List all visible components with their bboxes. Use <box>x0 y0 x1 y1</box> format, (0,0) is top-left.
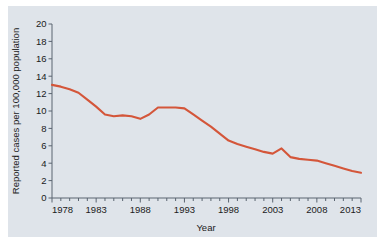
x-tick-label: 1988 <box>130 204 151 215</box>
chart-figure: 02468101214161820 1978198319881993199820… <box>0 0 385 248</box>
x-tick-label: 2013 <box>340 204 361 215</box>
x-tick-label: 1983 <box>86 204 107 215</box>
y-tick-label: 4 <box>41 158 46 169</box>
x-tick-label: 2008 <box>306 204 327 215</box>
y-tick-label: 12 <box>36 88 47 99</box>
y-axis-tick-labels: 02468101214161820 <box>36 18 47 203</box>
y-tick-label: 0 <box>41 192 46 203</box>
axes <box>52 24 361 198</box>
y-tick-label: 16 <box>36 53 47 64</box>
y-tick-label: 6 <box>41 140 46 151</box>
y-tick-label: 10 <box>36 105 47 116</box>
x-tick-label: 2003 <box>262 204 283 215</box>
x-tick-label: 1978 <box>52 204 73 215</box>
y-axis-ticks <box>49 24 53 198</box>
y-axis-title: Reported cases per 100,000 population <box>10 28 21 194</box>
y-tick-label: 2 <box>41 175 46 186</box>
y-tick-label: 20 <box>36 18 47 29</box>
y-tick-label: 14 <box>36 71 47 82</box>
x-tick-label: 1998 <box>218 204 239 215</box>
x-axis-title: Year <box>196 222 215 233</box>
x-tick-label: 1993 <box>174 204 195 215</box>
data-series-line <box>52 85 361 173</box>
y-tick-label: 8 <box>41 123 46 134</box>
y-tick-label: 18 <box>36 36 47 47</box>
x-axis-major-ticks <box>52 198 361 203</box>
x-axis-tick-labels: 19781983198819931998200320082013 <box>52 204 361 215</box>
line-chart: 02468101214161820 1978198319881993199820… <box>0 0 385 248</box>
